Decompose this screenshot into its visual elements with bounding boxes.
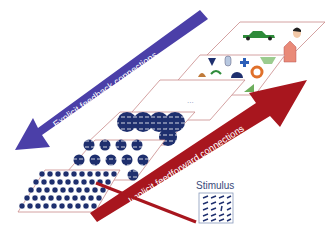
stimulus-label: Stimulus (196, 180, 234, 191)
face-icon (293, 28, 301, 39)
stimulus: Stimulus (196, 180, 234, 223)
ellipsis-text: ... (187, 96, 194, 105)
hierarchy-diagram: ... Explicit feedba (0, 0, 335, 243)
cylinder-icon (225, 56, 231, 66)
